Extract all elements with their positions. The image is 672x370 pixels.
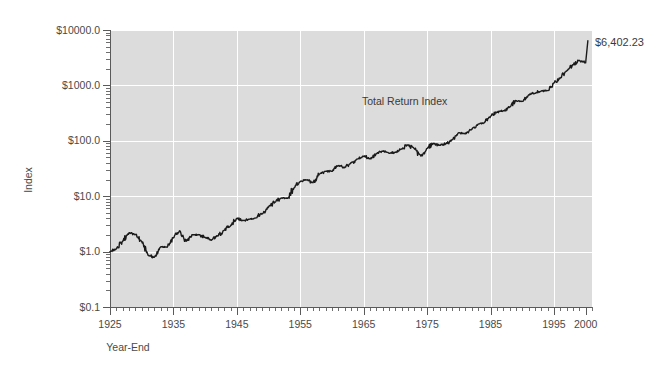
y-tick-label: $10000.0 (56, 24, 100, 36)
x-tick-label: 1935 (162, 318, 186, 330)
y-axis-title: Index (22, 166, 34, 192)
x-tick-label: 1955 (289, 318, 313, 330)
x-axis-title: Year-End (106, 341, 150, 353)
chart-figure: $10000.0$1000.0$100.0$10.0$1.0$0.1 19251… (0, 0, 672, 370)
series-annotation-label: Total Return Index (362, 95, 448, 107)
y-tick-label: $10.0 (74, 190, 100, 202)
x-tick-label: 1925 (98, 318, 122, 330)
x-tick-label: 1965 (352, 318, 376, 330)
x-tick-label: 2000 (574, 318, 598, 330)
end-value-annotation: $6,402.23 (595, 36, 644, 48)
y-tick-label: $1000.0 (62, 79, 100, 91)
x-tick-label: 1995 (542, 318, 566, 330)
y-tick-label: $0.1 (80, 301, 101, 313)
x-tick-label: 1985 (479, 318, 503, 330)
y-tick-label: $100.0 (68, 134, 100, 146)
x-tick-label: 1945 (225, 318, 249, 330)
y-tick-label: $1.0 (80, 245, 101, 257)
x-tick-label: 1975 (415, 318, 439, 330)
total-return-index-chart: $10000.0$1000.0$100.0$10.0$1.0$0.1 19251… (0, 0, 672, 370)
plot-area-background (110, 30, 592, 307)
